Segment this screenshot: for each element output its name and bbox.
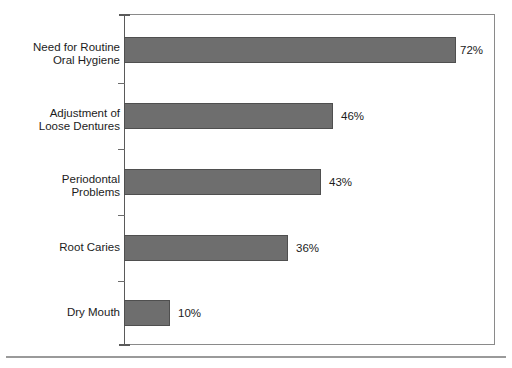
category-label: Periodontal Problems [0, 173, 120, 199]
category-tick-1 [118, 83, 125, 84]
bar[interactable] [124, 169, 321, 195]
category-label: Dry Mouth [0, 306, 120, 319]
axis-cap-bottom [119, 344, 130, 346]
axis-cap-top [119, 14, 130, 16]
category-label: Root Caries [0, 241, 120, 254]
bar-value-label: 72% [460, 44, 483, 57]
bar-chart-figure: Need for Routine Oral Hygiene 72% Adjust… [0, 0, 512, 368]
category-tick-3 [118, 215, 125, 216]
category-label: Adjustment of Loose Dentures [0, 107, 120, 133]
footer-divider [6, 356, 506, 358]
bar-value-label: 36% [296, 242, 319, 255]
category-label: Need for Routine Oral Hygiene [0, 41, 120, 67]
bar-value-label: 43% [329, 176, 352, 189]
category-tick-2 [118, 149, 125, 150]
bar[interactable] [124, 235, 288, 261]
bar[interactable] [124, 103, 333, 129]
bar[interactable] [124, 300, 170, 326]
bar-value-label: 46% [341, 110, 364, 123]
bar[interactable] [124, 37, 456, 63]
category-tick-4 [118, 281, 125, 282]
bar-value-label: 10% [178, 307, 201, 320]
